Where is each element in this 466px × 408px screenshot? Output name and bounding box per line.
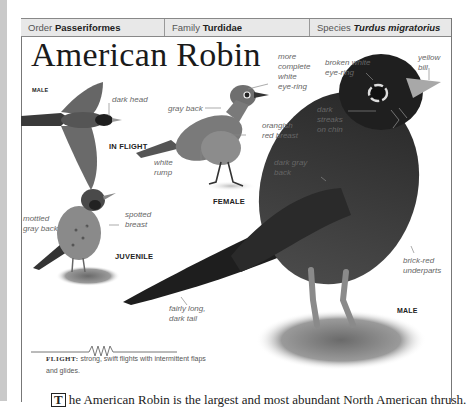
label-broken-white-eye-ring: broken white eye-ring [325, 58, 370, 78]
body-text: he American Robin is the largest and mos… [69, 392, 466, 407]
label-dark-head: dark head [112, 95, 148, 105]
male-tag: MALE [397, 307, 418, 314]
flight-male-tag: MALE [32, 87, 48, 93]
female-tag: FEMALE [213, 197, 245, 206]
label-orangish-red-breast: orangish red breast [262, 121, 298, 141]
label-dark-streaks-on-chin: dark streaks on chin [317, 105, 343, 135]
label-more-complete-eye-ring: more complete white eye-ring [278, 52, 310, 92]
label-mottled-gray-back: mottled gray back [23, 214, 58, 234]
in-flight-tag: IN FLIGHT [109, 142, 147, 151]
body-text-start: The American Robin is the largest and mo… [51, 392, 466, 408]
field-guide-page: Order Passeriformes Family Turdidae Spec… [21, 0, 455, 401]
flight-pattern-note: FLIGHT: strong, swift flights with inter… [46, 353, 216, 376]
juvenile-robin [33, 189, 120, 286]
label-dark-gray-back: dark gray back [274, 158, 307, 178]
label-white-rump: white rump [154, 158, 173, 178]
juvenile-tag: JUVENILE [115, 252, 153, 261]
label-gray-back: gray back [168, 104, 203, 114]
label-yellow-bill: yellow bill [418, 53, 440, 73]
flight-label: FLIGHT: [46, 355, 79, 363]
label-fairly-long-dark-tail: fairly long, dark tail [169, 304, 205, 324]
label-brick-red-underparts: brick-red underparts [403, 256, 441, 276]
label-spotted-breast: spotted breast [125, 210, 151, 230]
drop-cap: T [51, 393, 66, 407]
page-edge [0, 0, 7, 401]
flying-male-robin [21, 82, 122, 190]
